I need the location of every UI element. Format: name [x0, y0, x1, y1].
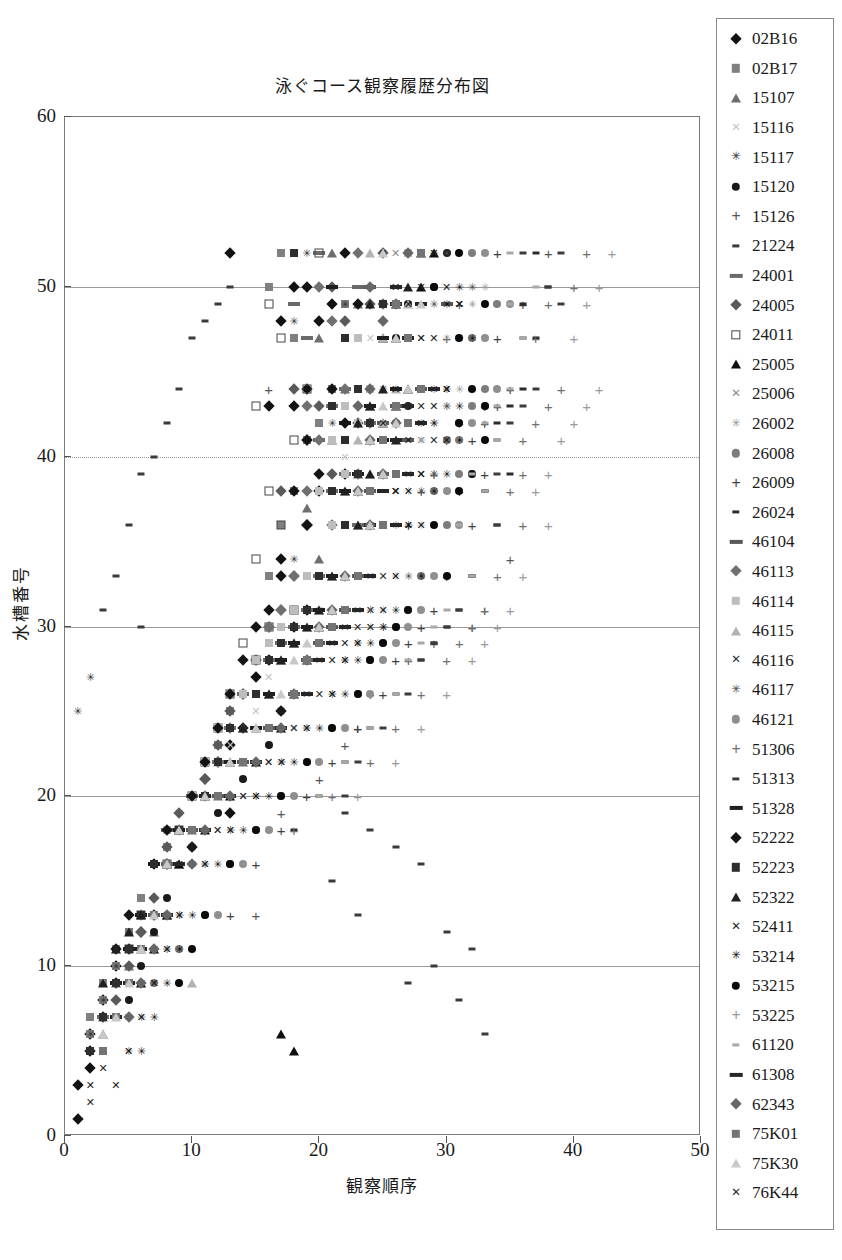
- legend-item-61120[interactable]: 61120: [717, 1030, 833, 1060]
- legend-label: 52222: [752, 829, 795, 846]
- legend-item-46116[interactable]: ✕46116: [717, 645, 833, 675]
- data-point: [201, 911, 209, 919]
- legend-item-24005[interactable]: 24005: [717, 290, 833, 320]
- data-point: [290, 690, 298, 698]
- triangle-icon: [727, 355, 745, 373]
- legend-item-52222[interactable]: 52222: [717, 823, 833, 853]
- legend-item-15117[interactable]: ✳15117: [717, 142, 833, 172]
- legend-label: 02B16: [752, 30, 797, 47]
- legend[interactable]: 02B1602B1715107✕15116✳1511715120+1512621…: [716, 18, 834, 1230]
- data-point: +: [417, 619, 426, 634]
- data-point: [377, 336, 389, 340]
- legend-item-15116[interactable]: ✕15116: [717, 113, 833, 143]
- legend-item-02B17[interactable]: 02B17: [717, 54, 833, 84]
- legend-item-51306[interactable]: +51306: [717, 734, 833, 764]
- legend-item-46104[interactable]: 46104: [717, 527, 833, 557]
- legend-item-51313[interactable]: 51313: [717, 764, 833, 794]
- legend-item-53214[interactable]: ✳53214: [717, 941, 833, 971]
- y-tick-label-0: 0: [10, 1124, 56, 1146]
- starburst-icon: ✳: [727, 681, 745, 699]
- data-point: [276, 690, 286, 699]
- legend-label: 26002: [752, 415, 795, 432]
- data-point: [72, 1079, 83, 1090]
- data-point: [443, 931, 450, 934]
- data-point: [418, 642, 425, 645]
- triangle-icon: [727, 1154, 745, 1172]
- legend-item-46117[interactable]: ✳46117: [717, 675, 833, 705]
- data-point: [341, 761, 348, 764]
- data-point: ✳: [404, 519, 413, 530]
- data-point: [354, 761, 361, 764]
- data-point: [558, 302, 565, 305]
- y-axis-ticks: 0102030405060: [8, 116, 56, 1135]
- legend-item-46115[interactable]: 46115: [717, 616, 833, 646]
- data-point: [519, 251, 526, 254]
- data-point: [328, 521, 336, 529]
- legend-item-26002[interactable]: ✳26002: [717, 409, 833, 439]
- legend-item-21224[interactable]: 21224: [717, 231, 833, 261]
- data-point: [290, 792, 298, 800]
- dash-lg-icon: [727, 799, 745, 817]
- legend-label: 75K30: [752, 1155, 798, 1172]
- legend-item-15126[interactable]: +15126: [717, 202, 833, 232]
- y-tick-mark-20: [64, 795, 71, 796]
- legend-item-61308[interactable]: 61308: [717, 1060, 833, 1090]
- data-point: [315, 419, 323, 427]
- data-point: [469, 574, 476, 577]
- legend-item-24001[interactable]: 24001: [717, 261, 833, 291]
- data-point: [341, 812, 348, 815]
- data-point: [303, 758, 311, 766]
- data-point: ✳: [429, 485, 438, 496]
- legend-item-25006[interactable]: ✕25006: [717, 379, 833, 409]
- legend-item-26024[interactable]: 26024: [717, 498, 833, 528]
- data-point: ✳: [417, 434, 426, 445]
- legend-item-52411[interactable]: ✕52411: [717, 912, 833, 942]
- data-point: [176, 387, 183, 390]
- data-point: +: [493, 245, 502, 260]
- data-point: [481, 421, 488, 424]
- legend-item-46114[interactable]: 46114: [717, 586, 833, 616]
- legend-item-53225[interactable]: +53225: [717, 1001, 833, 1031]
- legend-item-62343[interactable]: 62343: [717, 1089, 833, 1119]
- legend-item-24011[interactable]: 24011: [717, 320, 833, 350]
- legend-item-26009[interactable]: +26009: [717, 468, 833, 498]
- square-icon: [727, 858, 745, 876]
- data-point: [314, 434, 325, 445]
- legend-label: 15126: [752, 208, 795, 225]
- legend-item-76K44[interactable]: ✕76K44: [717, 1178, 833, 1208]
- legend-item-15120[interactable]: 15120: [717, 172, 833, 202]
- gridline-y-20: [65, 796, 699, 797]
- plus-icon: +: [727, 207, 745, 225]
- data-point: [352, 608, 364, 612]
- legend-item-26008[interactable]: 26008: [717, 438, 833, 468]
- data-point: +: [468, 653, 477, 668]
- legend-item-52223[interactable]: 52223: [717, 853, 833, 883]
- data-point: [125, 523, 132, 526]
- legend-item-46121[interactable]: 46121: [717, 705, 833, 735]
- data-point: [418, 863, 425, 866]
- data-point: [290, 334, 298, 342]
- legend-item-46113[interactable]: 46113: [717, 557, 833, 587]
- data-point: [264, 690, 274, 699]
- data-point: +: [595, 381, 604, 396]
- legend-item-15107[interactable]: 15107: [717, 83, 833, 113]
- gridline-y-10: [65, 966, 699, 967]
- data-point: [379, 521, 387, 529]
- data-point: [315, 639, 323, 647]
- data-point: ✳: [340, 298, 349, 309]
- data-point: [72, 1113, 83, 1124]
- legend-label: 76K44: [752, 1184, 798, 1201]
- legend-item-25005[interactable]: 25005: [717, 350, 833, 380]
- legend-item-52322[interactable]: 52322: [717, 882, 833, 912]
- legend-item-53215[interactable]: 53215: [717, 971, 833, 1001]
- data-point: [265, 826, 273, 834]
- legend-item-75K01[interactable]: 75K01: [717, 1119, 833, 1149]
- data-point: ✕: [124, 1046, 133, 1057]
- legend-item-75K30[interactable]: 75K30: [717, 1149, 833, 1179]
- legend-item-02B16[interactable]: 02B16: [717, 24, 833, 54]
- data-point: [494, 404, 501, 407]
- legend-item-51328[interactable]: 51328: [717, 793, 833, 823]
- plus-icon: +: [727, 740, 745, 758]
- diamond-icon: [727, 562, 745, 580]
- data-point: ✕: [417, 468, 426, 479]
